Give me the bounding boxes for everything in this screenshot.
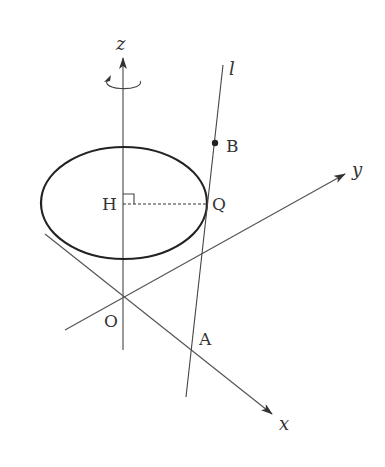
right-angle-mark-icon bbox=[123, 194, 134, 204]
x-axis bbox=[45, 234, 272, 414]
geometry-diagram: z l B y H Q O A x bbox=[0, 0, 385, 467]
rotating-circle bbox=[41, 147, 207, 259]
point-B-dot bbox=[212, 140, 218, 146]
rotation-arrow-icon bbox=[107, 79, 141, 89]
point-Q-label: Q bbox=[212, 194, 226, 214]
y-axis-label: y bbox=[351, 159, 363, 180]
origin-label: O bbox=[104, 311, 118, 331]
x-axis-label: x bbox=[279, 413, 289, 434]
rotation-arrowhead-icon bbox=[104, 75, 111, 82]
point-B-label: B bbox=[226, 136, 239, 156]
point-H-label: H bbox=[102, 194, 117, 214]
z-axis-label: z bbox=[115, 33, 126, 54]
point-A-label: A bbox=[198, 329, 212, 349]
line-l-label: l bbox=[229, 58, 235, 79]
